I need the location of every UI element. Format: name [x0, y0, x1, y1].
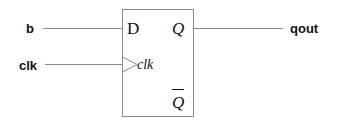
output-qout-label: qout [290, 21, 319, 36]
pin-q-label: Q [172, 19, 184, 38]
input-clk-label: clk [19, 58, 38, 73]
pin-qbar-label: Q [172, 93, 184, 112]
dff-diagram: b clk D Q clk Q qout [0, 0, 337, 125]
clock-edge-icon [123, 57, 138, 72]
input-b-label: b [26, 21, 34, 36]
pin-d-label: D [127, 19, 139, 38]
pin-clk-label: clk [137, 57, 154, 72]
